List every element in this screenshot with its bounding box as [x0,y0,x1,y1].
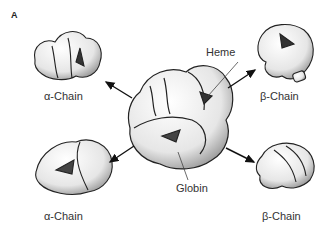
alpha-chain-bottom-subunit [36,140,113,194]
alpha-chain-top-label: α-Chain [44,90,83,102]
globin-label: Globin [176,182,208,194]
beta-chain-bottom-label: β-Chain [262,210,301,222]
beta-chain-top-subunit [258,25,313,83]
alpha-chain-bottom-label: α-Chain [44,210,83,222]
beta-chain-top-label: β-Chain [260,90,299,102]
hemoglobin-diagram [0,0,335,237]
heme-label: Heme [206,46,235,58]
hemoglobin-tetramer [128,66,232,169]
beta-chain-bottom-subunit [256,143,314,188]
alpha-chain-top-subunit [35,32,102,80]
